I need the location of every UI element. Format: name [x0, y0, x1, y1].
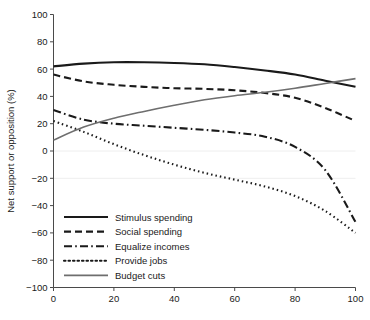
x-tick-label: 20: [109, 293, 120, 304]
legend: Stimulus spendingSocial spendingEqualize…: [64, 212, 193, 281]
y-tick-label: 0: [42, 145, 47, 156]
y-tick-label: −80: [31, 255, 47, 266]
legend-label: Provide jobs: [115, 255, 168, 266]
series-line-social-spending: [54, 75, 356, 121]
series-line-budget-cuts: [54, 79, 356, 140]
y-tick-label: 40: [37, 91, 48, 102]
x-tick-label: 60: [229, 293, 240, 304]
legend-label: Equalize incomes: [115, 241, 190, 252]
x-tick-label: 40: [169, 293, 180, 304]
x-tick-label: 100: [348, 293, 364, 304]
y-tick-label: 20: [37, 118, 48, 129]
y-tick-label: −20: [31, 173, 47, 184]
legend-item[interactable]: Social spending: [64, 226, 182, 237]
legend-item[interactable]: Equalize incomes: [64, 241, 190, 252]
y-tick-label: 100: [32, 9, 48, 20]
y-tick-label: 80: [37, 36, 48, 47]
x-tick-label: 80: [290, 293, 301, 304]
y-tick-label: −60: [31, 227, 47, 238]
legend-item[interactable]: Stimulus spending: [64, 212, 193, 223]
y-axis-title: Net support or opposition (%): [5, 89, 16, 213]
legend-label: Stimulus spending: [115, 212, 193, 223]
chart-container: 100806040200−20−40−60−80−100020406080100…: [0, 0, 370, 320]
series-line-equalize-incomes: [54, 110, 356, 222]
y-tick-label: −100: [26, 282, 47, 293]
legend-item[interactable]: Budget cuts: [64, 270, 165, 281]
legend-item[interactable]: Provide jobs: [64, 255, 168, 266]
legend-label: Budget cuts: [115, 270, 165, 281]
legend-label: Social spending: [115, 226, 182, 237]
y-tick-label: −40: [31, 200, 47, 211]
line-chart: 100806040200−20−40−60−80−100020406080100…: [0, 0, 370, 320]
y-tick-label: 60: [37, 64, 48, 75]
x-tick-label: 0: [51, 293, 56, 304]
